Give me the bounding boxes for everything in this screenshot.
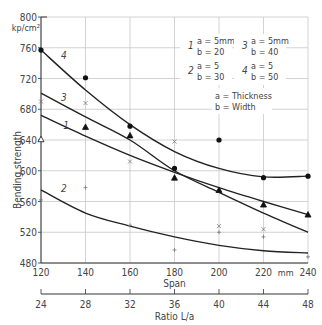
legend-b-4: b = 50 <box>251 72 278 82</box>
ratio-tick-label: 24 <box>35 299 47 310</box>
circle-marker <box>305 174 310 179</box>
legend-note-line: b = Width <box>215 102 256 112</box>
ratio-tick-label: 40 <box>213 299 225 310</box>
legend-b-3: b = 40 <box>251 47 278 57</box>
y-tick-label: 760 <box>20 43 37 54</box>
legend: 1a = 5mmb = 202a = 5b = 303a = 5mmb = 40… <box>180 34 289 114</box>
circle-marker <box>127 124 132 129</box>
plus-marker <box>173 248 177 252</box>
legend-id-2: 2 <box>188 65 194 76</box>
circle-marker <box>261 175 266 180</box>
curve-label-4: 4 <box>61 50 67 61</box>
y-tick-label: 680 <box>20 104 37 115</box>
plus-marker <box>217 230 221 234</box>
y-axis-title: Bending strength <box>12 131 23 209</box>
legend-a-2: a = 5 <box>197 61 219 71</box>
triangle-marker <box>83 124 89 129</box>
y-tick-label: 520 <box>20 227 37 238</box>
plus-marker <box>262 235 266 239</box>
x-tick-label: 220 <box>255 267 272 278</box>
ratio-tick-label: 32 <box>124 299 135 310</box>
plus-marker <box>306 255 310 259</box>
y-unit-label: kp/cm² <box>12 23 40 33</box>
x-tick-label: 140 <box>77 267 94 278</box>
legend-a-1: a = 5mm <box>197 36 235 46</box>
x-tick-label: 160 <box>121 267 138 278</box>
legend-b-2: b = 30 <box>197 72 224 82</box>
legend-id-3: 3 <box>242 40 248 51</box>
legend-a-3: a = 5mm <box>251 36 289 46</box>
circle-marker <box>38 47 43 52</box>
legend-id-4: 4 <box>242 65 248 76</box>
legend-a-4: a = 5 <box>251 61 273 71</box>
legend-note-line: a = Thickness <box>215 91 272 101</box>
x-tick-label: 240 <box>299 267 316 278</box>
ratio-tick-label: 36 <box>169 299 181 310</box>
circle-marker <box>216 137 221 142</box>
ratio-tick-label: 44 <box>258 299 270 310</box>
curve-label-1: 1 <box>63 120 69 131</box>
ratio-tick-label: 28 <box>80 299 92 310</box>
x-axis-title: Span <box>163 278 186 289</box>
x-tick-label: 120 <box>32 267 49 278</box>
bending-strength-chart: 480520560600640680720760800kp/cm²Bending… <box>0 0 322 325</box>
curve-label-3: 3 <box>61 92 67 103</box>
circle-marker <box>83 75 88 80</box>
legend-id-1: 1 <box>188 40 194 51</box>
triangle-marker <box>127 132 133 138</box>
triangle-marker <box>38 136 44 142</box>
plus-marker <box>84 186 88 190</box>
y-tick-label: 720 <box>20 74 37 85</box>
triangle-marker <box>172 175 178 181</box>
curve-label-2: 2 <box>61 183 67 194</box>
circle-marker <box>172 166 177 171</box>
legend-b-1: b = 20 <box>197 47 224 57</box>
x-unit-label: mm <box>278 268 294 278</box>
x-tick-label: 200 <box>210 267 227 278</box>
y-tick-label: 800 <box>20 12 37 23</box>
x-tick-label: 180 <box>166 267 183 278</box>
ratio-tick-label: 48 <box>302 299 314 310</box>
ratio-axis-title: Ratio L/a <box>155 311 194 322</box>
